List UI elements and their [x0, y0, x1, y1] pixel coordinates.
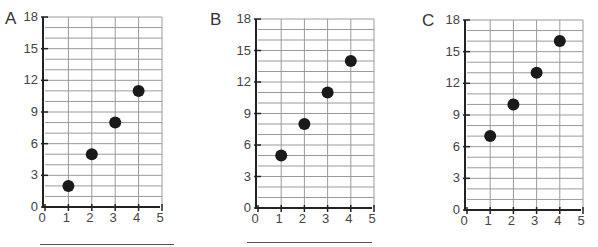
data-point [275, 150, 287, 162]
x-tick-label: 1 [272, 211, 286, 226]
x-tick-label: 0 [35, 210, 49, 225]
y-tick-label: 3 [16, 167, 38, 182]
x-tick-label: 4 [551, 213, 565, 228]
x-tick-label: 2 [83, 210, 97, 225]
y-tick-label: 3 [438, 170, 460, 185]
x-tick-label: 3 [319, 211, 333, 226]
grid-and-points [45, 17, 162, 207]
data-point [507, 98, 519, 110]
data-point [554, 35, 566, 47]
data-point [322, 87, 334, 99]
y-tick-label: 9 [438, 107, 460, 122]
y-tick-label: 6 [438, 139, 460, 154]
y-tick-label: 9 [229, 106, 251, 121]
data-point [484, 130, 496, 142]
x-tick-label: 5 [153, 210, 167, 225]
grid-and-points [467, 20, 583, 210]
plot-area [255, 19, 372, 209]
y-tick-label: 15 [16, 41, 38, 56]
data-point [109, 117, 121, 129]
data-point [531, 67, 543, 79]
answer-blank-line [247, 242, 372, 243]
data-point [345, 55, 357, 67]
x-tick-label: 0 [457, 213, 471, 228]
y-tick-label: 12 [438, 75, 460, 90]
y-tick-label: 18 [438, 12, 460, 27]
x-tick-label: 1 [481, 213, 495, 228]
y-tick-label: 9 [16, 104, 38, 119]
panel-label: C [422, 11, 434, 31]
x-tick-label: 1 [59, 210, 73, 225]
y-tick-label: 12 [16, 72, 38, 87]
x-tick-label: 4 [130, 210, 144, 225]
y-tick-label: 6 [229, 137, 251, 152]
panel-label: B [210, 10, 221, 30]
x-tick-label: 2 [504, 213, 518, 228]
data-point [298, 118, 310, 130]
x-tick-label: 2 [295, 211, 309, 226]
x-tick-label: 5 [574, 213, 588, 228]
plot-area [464, 20, 581, 211]
y-tick-label: 15 [438, 44, 460, 59]
plot-area [42, 17, 160, 208]
y-tick-label: 6 [16, 136, 38, 151]
panel-label: A [5, 9, 16, 29]
data-point [62, 180, 74, 192]
data-point [133, 85, 145, 97]
answer-blank-line [40, 244, 174, 245]
y-tick-label: 18 [16, 9, 38, 24]
y-tick-label: 3 [229, 169, 251, 184]
y-tick-label: 15 [229, 43, 251, 58]
grid-and-points [258, 19, 374, 208]
x-tick-label: 5 [365, 211, 379, 226]
x-tick-label: 3 [528, 213, 542, 228]
x-tick-label: 3 [106, 210, 120, 225]
x-tick-label: 4 [342, 211, 356, 226]
x-tick-label: 0 [248, 211, 262, 226]
data-point [86, 148, 98, 160]
y-tick-label: 12 [229, 74, 251, 89]
y-tick-label: 18 [229, 11, 251, 26]
